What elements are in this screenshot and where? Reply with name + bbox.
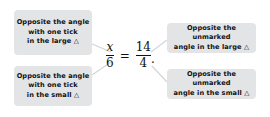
annotation-line: angle in the large △ bbox=[167, 43, 256, 53]
right-fraction: 14 4 bbox=[136, 41, 151, 70]
left-fraction: x 6 bbox=[106, 41, 114, 70]
annotation-line: in the small △ bbox=[17, 91, 90, 101]
right-denominator: 4 bbox=[140, 57, 148, 70]
annotation-bottom-right: Opposite the unmarked angle in the small… bbox=[167, 69, 256, 99]
period: . bbox=[151, 52, 155, 66]
annotation-top-left: Opposite the angle with one tick in the … bbox=[14, 10, 92, 55]
annotation-line: Opposite the angle bbox=[17, 72, 90, 82]
annotation-bottom-left: Opposite the angle with one tick in the … bbox=[14, 66, 92, 106]
equals-sign: = bbox=[120, 49, 130, 63]
annotation-line: with one tick bbox=[17, 28, 90, 38]
right-numerator: 14 bbox=[136, 41, 151, 54]
left-denominator: 6 bbox=[106, 57, 114, 70]
annotation-top-right: Opposite the unmarked angle in the large… bbox=[167, 23, 256, 53]
annotation-line: angle in the small △ bbox=[167, 89, 256, 99]
annotation-line: in the large △ bbox=[17, 37, 90, 47]
proportion-equation: x 6 = 14 4 . bbox=[106, 41, 155, 70]
annotation-line: Opposite the unmarked bbox=[167, 24, 256, 43]
annotation-line: Opposite the unmarked bbox=[167, 70, 256, 89]
left-numerator: x bbox=[106, 41, 113, 54]
annotation-line: with one tick bbox=[17, 81, 90, 91]
annotation-line: Opposite the angle bbox=[17, 18, 90, 28]
